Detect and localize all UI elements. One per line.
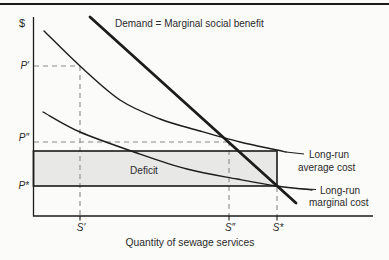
- price-label-p-double-prime: P″: [19, 132, 30, 143]
- price-label-p-star: P*: [18, 180, 30, 191]
- price-label-p-prime: P′: [20, 60, 30, 71]
- natural-monopoly-chart: $ Demand = Marginal social benefit P′ P″…: [0, 0, 389, 260]
- lmc-label-line2: marginal cost: [309, 197, 369, 208]
- quantity-label-s-star: S*: [273, 222, 285, 233]
- x-axis-caption: Quantity of sewage services: [126, 237, 255, 248]
- leader-long-run-average-cost: [286, 152, 304, 154]
- quantity-label-s-double-prime: S″: [225, 222, 236, 233]
- y-axis-dollar-label: $: [19, 17, 25, 29]
- figure-page: $ Demand = Marginal social benefit P′ P″…: [0, 0, 389, 260]
- lmc-label-line1: Long-run: [320, 185, 360, 196]
- quantity-label-s-prime: S′: [77, 222, 87, 233]
- deficit-area-label: Deficit: [130, 165, 158, 176]
- lac-label-line2: average cost: [298, 162, 355, 173]
- lac-label-line1: Long-run: [309, 149, 349, 160]
- demand-curve-label: Demand = Marginal social benefit: [115, 18, 264, 29]
- leader-long-run-marginal-cost: [296, 189, 316, 190]
- chart-labels: $ Demand = Marginal social benefit P′ P″…: [18, 17, 368, 248]
